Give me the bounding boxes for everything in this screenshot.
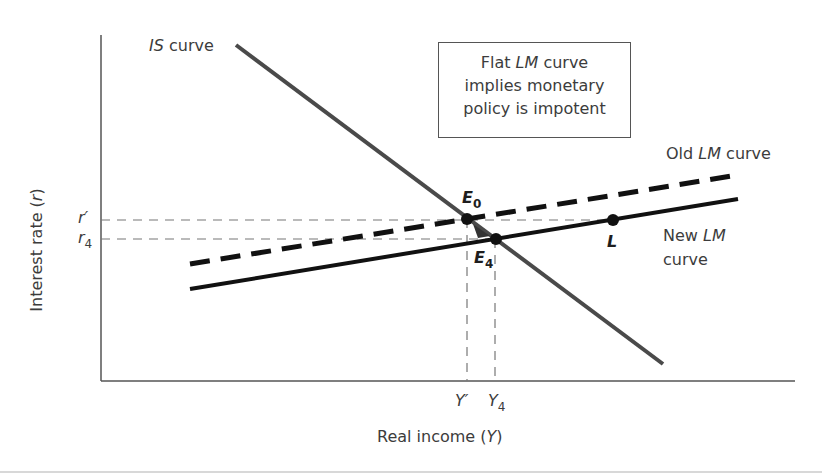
new-lm-curve-label: New LMcurve	[663, 224, 726, 272]
point-e0	[461, 213, 473, 225]
annotation-line-3: policy is impotent	[439, 97, 630, 120]
x-tick-y-prime: Y′	[455, 393, 468, 409]
x-tick-y4: Y4	[488, 393, 505, 409]
e4-label: E4	[474, 250, 493, 266]
y-tick-r-prime: r′	[78, 210, 88, 226]
is-curve-label: IS curve	[149, 38, 214, 54]
l-label: L	[607, 234, 617, 250]
bottom-divider	[0, 471, 822, 473]
point-l	[607, 214, 619, 226]
y-tick-r4: r4	[78, 230, 92, 246]
annotation-line-1: Flat LM curve	[439, 51, 630, 74]
x-axis-label: Real income (Y)	[377, 429, 503, 445]
annotation-line-2: implies monetary	[439, 74, 630, 97]
old-lm-curve-label: Old LM curve	[666, 146, 771, 162]
y-axis-label: Interest rate (r)	[27, 188, 46, 311]
annotation-box: Flat LM curve implies monetary policy is…	[438, 42, 631, 138]
point-e4	[490, 233, 502, 245]
e0-label: E0	[462, 190, 481, 206]
new-lm-curve	[190, 199, 738, 289]
